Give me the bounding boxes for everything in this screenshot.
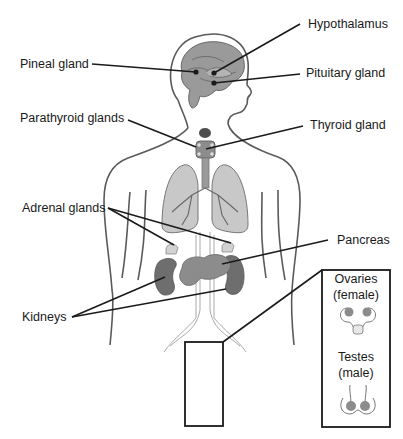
pelvic-region-box xyxy=(185,342,223,426)
label-testes: Testes xyxy=(322,350,390,365)
thyroid-region xyxy=(196,128,215,188)
label-ovaries: Ovaries xyxy=(322,272,390,287)
label-hypothalamus: Hypothalamus xyxy=(308,17,388,31)
label-pituitary-gland: Pituitary gland xyxy=(306,66,385,80)
label-testes-male: (male) xyxy=(322,366,390,381)
pancreas xyxy=(180,255,231,286)
label-thyroid-gland: Thyroid gland xyxy=(310,118,386,132)
endocrine-diagram: Hypothalamus Pineal gland Pituitary glan… xyxy=(0,0,403,439)
label-kidneys: Kidneys xyxy=(22,310,66,324)
label-pineal-gland: Pineal gland xyxy=(20,57,89,71)
label-parathyroid-glands: Parathyroid glands xyxy=(20,111,124,125)
label-ovaries-female: (female) xyxy=(322,288,390,303)
label-pancreas: Pancreas xyxy=(337,233,390,247)
label-adrenal-glands: Adrenal glands xyxy=(22,201,105,215)
